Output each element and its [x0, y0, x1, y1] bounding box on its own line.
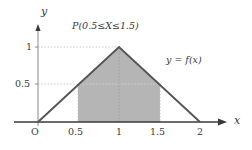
- origin-label: O: [31, 127, 39, 137]
- probability-annotation: P(0.5≤X≤1.5): [72, 21, 139, 31]
- x-tick-label-1-5: 1.5: [150, 127, 165, 137]
- x-axis-arrowhead: [218, 119, 227, 126]
- x-axis-label: x: [234, 115, 240, 126]
- x-tick-label-1: 1: [116, 127, 122, 137]
- function-curve-label: y = f(x): [166, 55, 202, 65]
- x-tick-label-2: 2: [197, 127, 203, 137]
- y-tick-label-0-5: 0.5: [15, 79, 30, 89]
- probability-density-figure: y x P(0.5≤X≤1.5) y = f(x) 1 0.5 O 0.5 1 …: [0, 0, 252, 150]
- y-tick-label-1: 1: [26, 42, 32, 52]
- y-axis-arrowhead: [35, 24, 40, 31]
- y-axis-label: y: [41, 6, 47, 17]
- x-tick-label-0-5: 0.5: [68, 127, 83, 137]
